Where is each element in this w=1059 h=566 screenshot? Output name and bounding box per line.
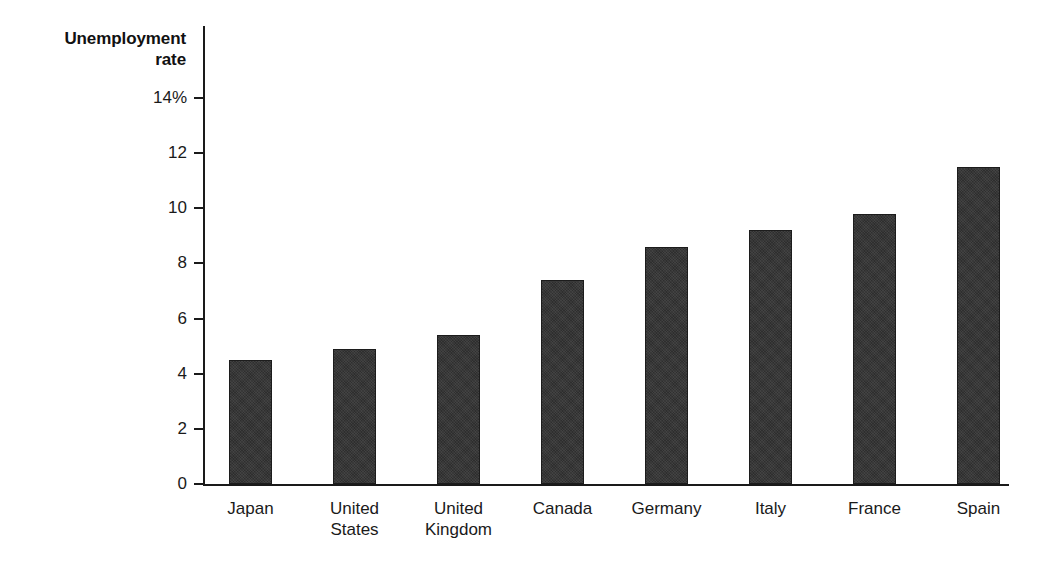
- bar: [749, 230, 792, 484]
- x-axis-category-label: Italy: [711, 498, 831, 519]
- y-axis-tick: [194, 262, 203, 264]
- y-axis-tick-label: 14%: [67, 89, 187, 106]
- y-axis-tick-label: 2: [67, 420, 187, 437]
- x-axis-category-label-line: United: [399, 498, 519, 519]
- bar: [853, 214, 896, 484]
- x-axis-category-label-line: France: [815, 498, 935, 519]
- x-axis-category-label: Canada: [503, 498, 623, 519]
- x-axis-category-label-line: Spain: [919, 498, 1039, 519]
- unemployment-rate-bar-chart: Unemployment rate 02468101214% JapanUnit…: [0, 0, 1059, 566]
- y-axis-tick: [194, 483, 203, 485]
- y-axis-tick-label: 4: [67, 365, 187, 382]
- y-axis-tick: [194, 318, 203, 320]
- x-axis-category-label-line: Japan: [191, 498, 311, 519]
- plot-area: 02468101214% JapanUnitedStatesUnitedKing…: [203, 26, 1009, 486]
- x-axis-category-label: Germany: [607, 498, 727, 519]
- x-axis-category-label-line: Italy: [711, 498, 831, 519]
- y-axis-tick-label: 12: [67, 144, 187, 161]
- bar: [229, 360, 272, 484]
- x-axis-category-label-line: Kingdom: [399, 519, 519, 540]
- y-axis-tick-labels: 02468101214%: [67, 26, 187, 486]
- y-axis-tick-label: 0: [67, 475, 187, 492]
- bar: [645, 247, 688, 484]
- x-axis-category-label-line: Germany: [607, 498, 727, 519]
- y-axis-tick-label: 10: [67, 199, 187, 216]
- x-axis-category-label-line: States: [295, 519, 415, 540]
- bar: [957, 167, 1000, 484]
- y-axis-tick-label: 6: [67, 310, 187, 327]
- y-axis-tick-label: 8: [67, 254, 187, 271]
- bar: [333, 349, 376, 484]
- bar: [437, 335, 480, 484]
- y-axis-line: [203, 26, 205, 486]
- x-axis-line: [203, 484, 1009, 486]
- y-axis-tick: [194, 207, 203, 209]
- x-axis-category-label: Spain: [919, 498, 1039, 519]
- x-axis-category-label: UnitedStates: [295, 498, 415, 540]
- x-axis-category-label: UnitedKingdom: [399, 498, 519, 540]
- y-axis-tick: [194, 152, 203, 154]
- x-axis-category-label: Japan: [191, 498, 311, 519]
- x-axis-category-label-line: Canada: [503, 498, 623, 519]
- bar: [541, 280, 584, 484]
- y-axis-tick: [194, 97, 203, 99]
- x-axis-category-label-line: United: [295, 498, 415, 519]
- y-axis-tick: [194, 373, 203, 375]
- y-axis-tick: [194, 428, 203, 430]
- x-axis-category-label: France: [815, 498, 935, 519]
